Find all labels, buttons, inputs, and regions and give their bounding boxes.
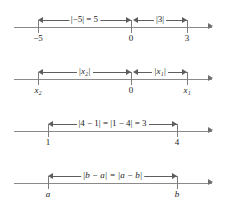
tick-label-a: a <box>33 189 63 199</box>
tick-label-x1: x₁ <box>172 85 202 95</box>
span-arrow-right-icon <box>182 69 187 75</box>
tick-mark-b <box>177 176 178 189</box>
axis-line-2 <box>14 79 212 80</box>
tick-label-zero: 0 <box>116 85 146 95</box>
number-line-3: 1 4 |4 − 1| = |1 − 4| = 3 <box>0 118 226 170</box>
tick-label-minus5: −5 <box>23 33 53 43</box>
measure-span-abs-minus5: |−5| = 5 <box>38 14 131 27</box>
span-arrow-right-icon <box>172 121 177 127</box>
span-arrow-right-icon <box>172 173 177 179</box>
span-label-distance-1-4: |4 − 1| = |1 − 4| = 3 <box>76 117 148 129</box>
measure-span-distance-a-b: |b − a| = |a − b| <box>48 170 177 183</box>
axis-arrowhead-icon <box>208 75 213 81</box>
number-line-4: a b |b − a| = |a − b| <box>0 170 226 211</box>
axis-line-4 <box>14 183 212 184</box>
tick-label-one: 1 <box>33 137 63 147</box>
axis-line-3 <box>14 131 212 132</box>
tick-label-four: 4 <box>162 137 192 147</box>
measure-span-abs-three: |3| <box>133 14 187 27</box>
tick-mark-three <box>187 20 188 33</box>
tick-label-x2: x₂ <box>23 85 53 95</box>
tick-mark-zero <box>131 72 132 85</box>
span-label-abs-minus5: |−5| = 5 <box>69 13 100 25</box>
axis-arrowhead-icon <box>208 23 213 29</box>
span-label-distance-a-b: |b − a| = |a − b| <box>81 169 145 181</box>
span-label-abs-three: |3| <box>154 13 166 25</box>
span-arrow-right-icon <box>126 69 131 75</box>
span-arrow-right-icon <box>126 17 131 23</box>
span-label-abs-x1: |x₁| <box>152 65 168 77</box>
axis-arrowhead-icon <box>208 179 213 185</box>
span-arrow-right-icon <box>182 17 187 23</box>
tick-mark-four <box>177 124 178 137</box>
tick-mark-x1 <box>187 72 188 85</box>
number-line-2: x₂ 0 x₁ |x₂| |x₁| <box>0 66 226 118</box>
axis-line-1 <box>14 27 212 28</box>
axis-arrowhead-icon <box>208 127 213 133</box>
number-line-1: −5 0 3 |−5| = 5 |3| <box>0 14 226 66</box>
tick-label-zero: 0 <box>116 33 146 43</box>
span-label-abs-x2: |x₂| <box>76 65 92 77</box>
tick-label-three: 3 <box>172 33 202 43</box>
measure-span-abs-x1: |x₁| <box>133 66 187 79</box>
absolute-value-number-lines-figure: −5 0 3 |−5| = 5 |3| x₂ 0 x₁ <box>0 0 226 211</box>
tick-label-b: b <box>162 189 192 199</box>
measure-span-distance-1-4: |4 − 1| = |1 − 4| = 3 <box>48 118 177 131</box>
measure-span-abs-x2: |x₂| <box>38 66 131 79</box>
tick-mark-zero <box>131 20 132 33</box>
